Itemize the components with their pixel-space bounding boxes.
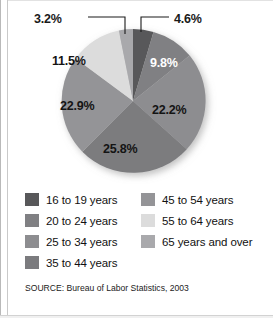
legend-label: 55 to 64 years bbox=[162, 215, 233, 227]
legend-item-35-to-44[interactable]: 35 to 44 years bbox=[25, 253, 117, 272]
legend-item-45-to-54[interactable]: 45 to 54 years bbox=[141, 190, 252, 209]
legend-label: 35 to 44 years bbox=[46, 257, 117, 269]
legend-label: 16 to 19 years bbox=[46, 194, 117, 206]
leader-line-16-to-19 bbox=[141, 17, 169, 32]
legend-column-right: 45 to 54 years 55 to 64 years 65 years a… bbox=[141, 190, 252, 253]
legend-item-65-and-over[interactable]: 65 years and over bbox=[141, 232, 252, 251]
pie-value-label-55-to-64: 11.5% bbox=[52, 54, 86, 68]
legend-swatch-icon bbox=[25, 235, 39, 248]
pie-value-label-25-to-34: 22.2% bbox=[152, 103, 186, 117]
legend-item-25-to-34[interactable]: 25 to 34 years bbox=[25, 232, 117, 251]
pie-value-label-35-to-44: 25.8% bbox=[103, 142, 137, 156]
pie-callout-label-16-to-19: 4.6% bbox=[174, 12, 202, 26]
legend-swatch-icon bbox=[25, 256, 39, 269]
legend-label: 65 years and over bbox=[162, 236, 252, 248]
legend-swatch-icon bbox=[141, 235, 155, 248]
panel-border-bottom-rule bbox=[0, 315, 273, 316]
pie-value-label-45-to-54: 22.9% bbox=[60, 99, 94, 113]
figure-panel: 3.2% 4.6% 9.8% 22.2% 25.8% 22.9% 11.5% 1… bbox=[0, 0, 273, 318]
legend-column-left: 16 to 19 years 20 to 24 years 25 to 34 y… bbox=[25, 190, 117, 274]
pie-chart: 3.2% 4.6% 9.8% 22.2% 25.8% 22.9% 11.5% bbox=[8, 0, 273, 185]
legend-swatch-icon bbox=[25, 214, 39, 227]
legend-label: 45 to 54 years bbox=[162, 194, 233, 206]
legend-label: 20 to 24 years bbox=[46, 215, 117, 227]
pie-callout-label-65-and-over: 3.2% bbox=[34, 12, 62, 26]
legend-item-16-to-19[interactable]: 16 to 19 years bbox=[25, 190, 117, 209]
source-note: SOURCE: Bureau of Labor Statistics, 2003 bbox=[25, 283, 189, 293]
legend-item-55-to-64[interactable]: 55 to 64 years bbox=[141, 211, 252, 230]
legend-swatch-icon bbox=[25, 193, 39, 206]
legend-swatch-icon bbox=[141, 193, 155, 206]
pie-chart-svg bbox=[8, 0, 273, 185]
legend-label: 25 to 34 years bbox=[46, 236, 117, 248]
legend-item-20-to-24[interactable]: 20 to 24 years bbox=[25, 211, 117, 230]
legend-swatch-icon bbox=[141, 214, 155, 227]
pie-value-label-20-to-24: 9.8% bbox=[150, 56, 178, 70]
